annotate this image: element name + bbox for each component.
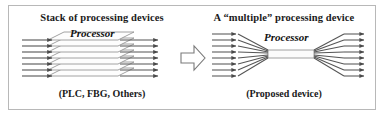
block-arrow-right-icon: [180, 44, 206, 72]
left-processor-label: Processor: [70, 27, 115, 39]
multiple-processing-device-diagram: Processor: [212, 26, 370, 84]
output-lines: [344, 34, 364, 76]
right-panel-title: A “multiple” processing device: [198, 12, 370, 23]
stacked-devices-diagram: Processor: [22, 26, 174, 84]
right-panel-caption: (Proposed device): [198, 88, 370, 99]
signal-lines-in: [22, 40, 52, 76]
right-processor-label: Processor: [264, 31, 309, 43]
figure-root: Stack of processing devices: [0, 0, 386, 119]
input-lines: [212, 34, 236, 76]
left-panel-title: Stack of processing devices: [22, 12, 182, 23]
processor-waist: [268, 50, 314, 58]
output-fan: [314, 34, 344, 76]
left-panel-caption: (PLC, FBG, Others): [22, 88, 182, 99]
